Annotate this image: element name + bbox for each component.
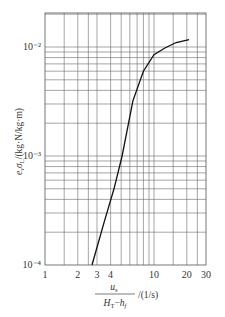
- x-tick-label: 2: [75, 269, 80, 280]
- x-axis-label: us HT−hf /(1/s): [95, 282, 158, 309]
- y-tick-label: 10⁻⁴: [23, 259, 42, 270]
- x-axis-ticks: 1234102030: [43, 269, 212, 280]
- svg-text:HT−hf: HT−hf: [103, 298, 128, 309]
- x-tick-label: 30: [201, 269, 211, 280]
- log-log-chart: 1234102030 10⁻⁴10⁻³10⁻² evσL/(kg·N/kg·m)…: [0, 0, 225, 317]
- y-tick-label: 10⁻³: [23, 150, 41, 161]
- x-tick-label: 3: [95, 269, 100, 280]
- x-tick-label: 4: [108, 269, 113, 280]
- x-tick-label: 1: [43, 269, 48, 280]
- svg-text:us: us: [110, 282, 118, 293]
- x-tick-label: 10: [149, 269, 159, 280]
- y-axis-label: evσL/(kg·N/kg·m): [14, 108, 25, 175]
- svg-text:/(1/s): /(1/s): [138, 290, 158, 301]
- x-tick-label: 20: [182, 269, 192, 280]
- data-curve: [92, 40, 189, 265]
- y-axis-ticks: 10⁻⁴10⁻³10⁻²: [23, 41, 42, 270]
- y-tick-label: 10⁻²: [23, 41, 41, 52]
